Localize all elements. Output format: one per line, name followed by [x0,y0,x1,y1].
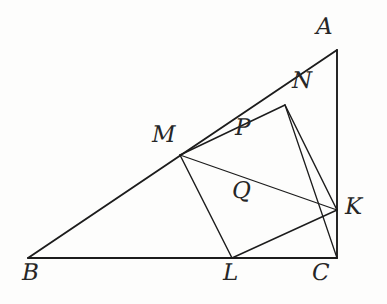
vertex-label-N: N [292,70,312,93]
vertex-label-C: C [312,262,330,285]
vertex-label-M: M [152,124,176,147]
segment-group [28,50,337,258]
segment-MN [180,105,285,155]
vertex-label-B: B [22,262,39,285]
geometry-canvas [0,0,387,304]
vertex-label-Q: Q [232,180,251,203]
vertex-label-L: L [223,262,238,285]
vertex-label-K: K [345,196,362,219]
geometry-figure: A B C K L M N P Q [0,0,387,304]
segment-KL [232,210,337,258]
vertex-label-P: P [235,117,250,140]
segment-NC [285,105,337,258]
vertex-label-A: A [316,16,333,39]
